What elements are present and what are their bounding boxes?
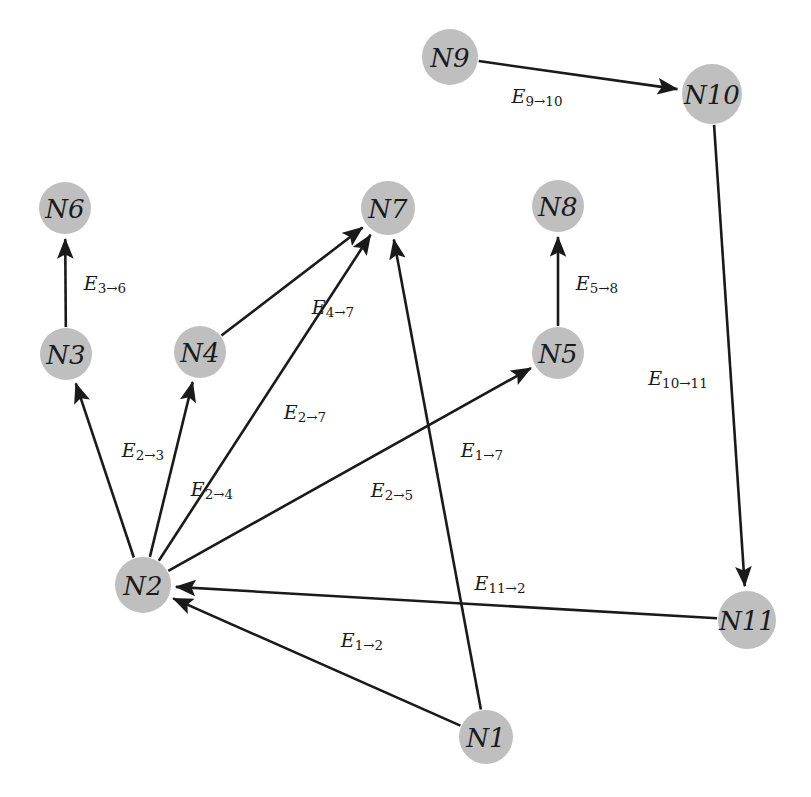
edge-label-e2-5: E2→5 (370, 479, 413, 503)
edges-layer (65, 61, 745, 726)
edge-label-e9-10: E9→10 (511, 85, 563, 109)
edge-e10-11 (714, 125, 745, 586)
node-n6[interactable]: N6 (39, 182, 91, 234)
nodes-layer: N1N2N3N4N5N6N7N8N9N10N11 (39, 29, 776, 764)
node-label-n1: N1 (465, 723, 505, 753)
node-n3[interactable]: N3 (40, 328, 92, 380)
edge-e1-7 (394, 239, 481, 709)
node-n5[interactable]: N5 (532, 327, 584, 379)
edge-label-e1-2: E1→2 (340, 629, 383, 653)
node-n11[interactable]: N11 (718, 591, 776, 649)
edge-label-e5-8: E5→8 (575, 272, 618, 296)
edge-e1-2 (173, 598, 460, 725)
graph-diagram-canvas: N1N2N3N4N5N6N7N8N9N10N11 E9→10E10→11E11→… (0, 0, 811, 797)
node-n4[interactable]: N4 (174, 326, 226, 378)
edge-e2-3 (76, 383, 134, 557)
node-label-n5: N5 (537, 339, 577, 369)
edge-label-e11-2: E11→2 (474, 572, 526, 596)
node-n1[interactable]: N1 (459, 710, 513, 764)
node-label-n7: N7 (367, 194, 408, 224)
edge-label-e2-3: E2→3 (121, 439, 164, 463)
node-n10[interactable]: N10 (682, 64, 742, 124)
edge-e9-10 (479, 61, 678, 89)
edge-e3-6 (65, 239, 66, 327)
edge-e2-7 (159, 235, 371, 561)
edge-label-e4-7: E4→7 (311, 296, 354, 320)
node-label-n2: N2 (122, 571, 162, 601)
node-label-n3: N3 (45, 340, 85, 370)
node-n2[interactable]: N2 (115, 557, 171, 613)
edge-e11-2 (176, 587, 717, 618)
graph-svg: N1N2N3N4N5N6N7N8N9N10N11 E9→10E10→11E11→… (0, 0, 811, 797)
node-n9[interactable]: N9 (422, 29, 478, 85)
edge-label-e1-7: E1→7 (460, 439, 503, 463)
edge-e2-4 (150, 382, 193, 557)
edge-label-e2-7: E2→7 (283, 401, 326, 425)
edge-e2-5 (168, 368, 531, 571)
node-label-n4: N4 (179, 338, 219, 368)
node-label-n10: N10 (683, 80, 740, 110)
node-label-n8: N8 (537, 192, 577, 222)
node-label-n6: N6 (44, 194, 84, 224)
edge-labels-layer: E9→10E10→11E11→2E3→6E5→8E2→3E2→4E2→7E2→5… (83, 85, 708, 653)
node-label-n11: N11 (718, 606, 775, 636)
node-label-n9: N9 (429, 43, 469, 73)
edge-label-e3-6: E3→6 (83, 272, 126, 296)
node-n8[interactable]: N8 (532, 180, 584, 232)
edge-label-e10-11: E10→11 (647, 367, 708, 391)
node-n7[interactable]: N7 (361, 181, 415, 235)
